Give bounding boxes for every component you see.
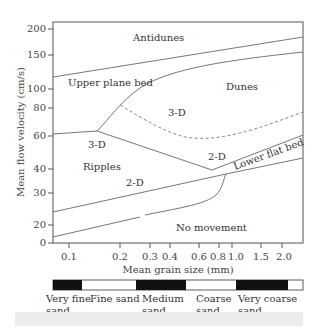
- plot-frame: [53, 22, 303, 243]
- x-axis-tick-labels: 0.1 0.2 0.3 0.4 0.6 0.8 1.0 1.5 2.0: [61, 251, 292, 262]
- coarse-sand-label: Coarse: [196, 293, 232, 304]
- no-movement-boundary-left: [53, 217, 140, 237]
- y-axis-ticks: [48, 29, 53, 243]
- medium-sand-label: Medium: [142, 293, 184, 304]
- no-movement-label: No movement: [176, 222, 247, 233]
- grain-size-scale: [53, 280, 303, 290]
- phase-boundaries: [53, 37, 303, 237]
- dunes-2d-3d-dashed-boundary: [120, 105, 303, 138]
- svg-text:150: 150: [27, 49, 46, 60]
- medium-sand-segment: [136, 280, 186, 290]
- svg-text:0.8: 0.8: [210, 251, 226, 262]
- very-coarse-sand-label: Very coarse: [237, 293, 297, 304]
- fine-sand-label: Fine sand: [90, 293, 140, 304]
- dunes-label: Dunes: [226, 81, 258, 92]
- y-axis-label: Mean flow velocity (cm/s): [15, 67, 26, 197]
- upper-plane-bed-label: Upper plane bed: [68, 77, 154, 88]
- svg-text:40: 40: [33, 163, 46, 174]
- y-axis-tick-labels: 200 150 100 80 60 40 30 20 0: [27, 23, 46, 248]
- x-axis-ticks: [69, 243, 282, 248]
- svg-text:0.6: 0.6: [191, 251, 207, 262]
- svg-text:0: 0: [40, 237, 46, 248]
- svg-text:100: 100: [27, 83, 46, 94]
- svg-text:0.3: 0.3: [142, 251, 158, 262]
- svg-text:2.0: 2.0: [276, 251, 292, 262]
- svg-text:30: 30: [33, 187, 46, 198]
- ripples-2d-label: 2-D: [126, 177, 144, 188]
- no-movement-boundary-curve: [145, 174, 226, 215]
- ripples-3d-label: 3-D: [88, 139, 106, 150]
- ripples-label: Ripples: [83, 161, 121, 172]
- svg-text:0.4: 0.4: [162, 251, 178, 262]
- svg-text:200: 200: [27, 23, 46, 34]
- antidunes-boundary: [53, 37, 303, 77]
- svg-text:60: 60: [33, 130, 46, 141]
- svg-text:0.2: 0.2: [112, 251, 128, 262]
- very-fine-sand-label: Very fine: [45, 293, 91, 304]
- lower-flat-bed-label: Lower flat bed: [232, 136, 306, 172]
- dunes-2d-label: 2-D: [208, 151, 226, 162]
- svg-text:20: 20: [33, 219, 46, 230]
- svg-text:1.5: 1.5: [253, 251, 269, 262]
- upper-plane-bed-boundary: [53, 52, 303, 134]
- very-coarse-sand-segment: [236, 280, 288, 290]
- bedform-phase-diagram: 200 150 100 80 60 40 30 20 0 Mean flow v…: [0, 0, 321, 329]
- svg-text:1.0: 1.0: [228, 251, 244, 262]
- unused: [97, 131, 303, 135]
- svg-text:0.1: 0.1: [61, 251, 77, 262]
- dunes-3d-label: 3-D: [168, 107, 186, 118]
- antidunes-label: Antidunes: [132, 32, 184, 43]
- caption-strip: [15, 312, 303, 326]
- x-axis-label: Mean grain size (mm): [122, 264, 233, 275]
- very-fine-sand-segment: [53, 280, 82, 290]
- svg-text:80: 80: [33, 102, 46, 113]
